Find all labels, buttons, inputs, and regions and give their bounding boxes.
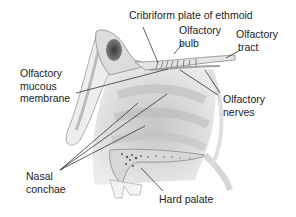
label-cribriform-plate: Cribriform plate of ethmoid <box>129 9 253 21</box>
label-olfactory-mucous-line3: membrane <box>20 92 70 104</box>
label-hard-palate: Hard palate <box>159 193 213 205</box>
label-olfactory-tract-line2: tract <box>238 41 258 53</box>
label-nasal-conchae-line2: conchae <box>26 183 66 195</box>
label-nasal-conchae-line1: Nasal <box>26 170 53 182</box>
label-olfactory-bulb-line1: Olfactory <box>179 24 221 36</box>
olfactory-anatomy-diagram: Cribriform plate of ethmoid Olfactory bu… <box>0 0 296 217</box>
label-olfactory-tract-line1: Olfactory <box>236 28 278 40</box>
label-olfactory-bulb-line2: bulb <box>179 37 199 49</box>
label-olfactory-nerves-line1: Olfactory <box>223 93 265 105</box>
label-olfactory-mucous-line2: mucous <box>20 80 57 92</box>
frontal-sinus <box>106 39 122 61</box>
label-olfactory-mucous-line1: Olfactory <box>20 67 62 79</box>
label-olfactory-nerves-line2: nerves <box>223 106 255 118</box>
